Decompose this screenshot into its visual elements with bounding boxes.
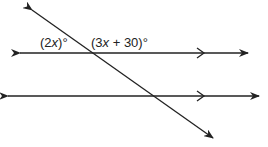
- transversal-line: [32, 10, 213, 138]
- angle-label-3x-plus-30: (3x + 30)°: [91, 35, 148, 50]
- angle-label-2x: (2x)°: [40, 35, 68, 50]
- bottom-parallel-line: [8, 91, 259, 101]
- parallel-lines-diagram: (2x)° (3x + 30)°: [0, 0, 268, 147]
